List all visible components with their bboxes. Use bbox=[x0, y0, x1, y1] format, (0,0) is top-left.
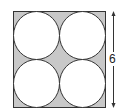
side-length-label: 6 bbox=[109, 52, 116, 66]
circle-bottom-left bbox=[14, 60, 60, 108]
diagram-canvas bbox=[0, 0, 117, 110]
circle-top-right bbox=[60, 12, 106, 60]
circle-top-left bbox=[14, 12, 60, 60]
circle-bottom-right bbox=[60, 60, 106, 108]
